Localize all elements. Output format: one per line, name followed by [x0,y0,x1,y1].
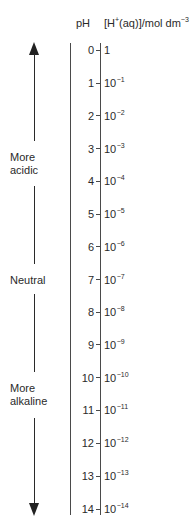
ph-value: 14 [82,502,94,516]
scale-row: 11 10−11 [0,403,190,417]
scale-row: 2 10−2 [0,109,190,123]
tick-mark [96,509,101,510]
conc-header-base: [H [104,17,115,29]
ph-value: 5 [88,207,94,221]
ph-value: 6 [88,240,94,254]
tick-mark [96,410,101,411]
ph-value: 4 [88,174,94,188]
concentration-value: 10−14 [104,502,129,516]
concentration-value: 10−12 [104,436,129,450]
scale-row: 1 10−1 [0,76,190,90]
concentration-value: 10−5 [104,207,125,221]
scale-row: 3 10−3 [0,142,190,156]
tick-mark [96,246,101,247]
tick-mark [96,214,101,215]
tick-mark [96,50,101,51]
tick-mark [96,115,101,116]
concentration-value: 10−13 [104,469,129,483]
ph-value: 11 [83,403,94,417]
ph-value: 13 [82,469,94,483]
scale-row: 12 10−12 [0,436,190,450]
ph-value: 2 [88,109,94,123]
ph-value: 12 [82,436,94,450]
scale-row: 4 10−4 [0,174,190,188]
scale-row: 7 10−7 [0,273,190,287]
tick-mark [96,377,101,378]
scale-row: 10 10−10 [0,371,190,385]
ph-value: 1 [88,76,94,90]
tick-mark [96,312,101,313]
concentration-value: 1 [104,43,111,57]
concentration-value: 10−10 [104,371,129,385]
scale-row: 6 10−6 [0,240,190,254]
concentration-value: 10−1 [104,76,125,90]
concentration-column-header: [H+(aq)]/mol dm−3 [104,17,189,29]
concentration-value: 10−7 [104,273,125,287]
ph-value: 7 [88,273,94,287]
ph-value: 0 [88,43,94,57]
scale-row: 9 10−9 [0,338,190,352]
arrow-shaft-bottom [34,418,36,504]
conc-header-exp: −3 [181,16,189,23]
tick-mark [96,443,101,444]
scale-row: 8 10−8 [0,305,190,319]
scale-row: 13 10−13 [0,469,190,483]
concentration-value: 10−2 [104,109,125,123]
conc-header-mid: (aq)]/mol dm [119,17,181,29]
ph-value: 3 [88,142,94,156]
ph-value: 9 [88,338,94,352]
concentration-value: 10−9 [104,338,125,352]
scale-row: 14 10−14 [0,502,190,516]
tick-mark [96,181,101,182]
tick-mark [96,344,101,345]
ph-column-header: pH [76,17,90,29]
tick-mark [96,279,101,280]
scale-row: 5 10−5 [0,207,190,221]
tick-mark [96,476,101,477]
ph-value: 10 [82,371,94,385]
tick-mark [96,83,101,84]
arrow-shaft-top [34,54,36,141]
concentration-value: 10−11 [104,403,128,417]
concentration-value: 10−4 [104,174,125,188]
concentration-value: 10−3 [104,142,125,156]
ph-value: 8 [88,305,94,319]
tick-mark [96,148,101,149]
concentration-value: 10−8 [104,305,125,319]
concentration-value: 10−6 [104,240,125,254]
scale-row: 0 1 [0,43,190,57]
